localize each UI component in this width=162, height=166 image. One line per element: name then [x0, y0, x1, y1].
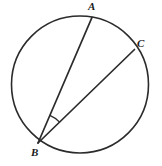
circle-diagram-svg [0, 0, 162, 166]
vertex-label-c: C [137, 38, 144, 49]
chord-ba [38, 17, 92, 143]
chord-bc [38, 50, 135, 144]
vertex-label-b: B [31, 147, 38, 158]
vertex-label-a: A [88, 1, 95, 12]
main-circle [12, 16, 149, 153]
geometry-figure: A C B [0, 0, 162, 166]
angle-arc-b [50, 115, 60, 122]
